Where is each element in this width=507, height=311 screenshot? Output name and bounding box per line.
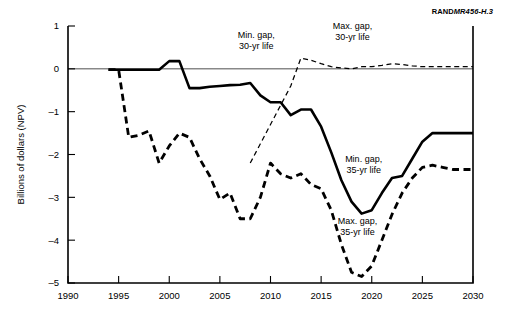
y-tick-label: –5 [48,277,59,288]
x-tick-label: 1995 [108,290,129,301]
series-label: Min. gap,30-yr life [238,30,275,51]
y-tick-label: 1 [54,20,59,31]
series-line-max-gap-35-yr-life [109,70,474,277]
x-tick-label: 2005 [209,290,230,301]
series-annotations: Min. gap,30-yr lifeMax. gap,30-yr lifeMi… [238,21,382,237]
series-layer [109,58,474,276]
axis-frame [68,26,473,283]
series-label-line2: 35-yr life [346,165,381,175]
y-tick-label: 0 [54,63,59,74]
series-label: Min. gap,35-yr life [345,154,382,175]
y-tick-label: –4 [48,235,59,246]
series-line-min-gap-30-yr-life [109,61,474,213]
x-tick-label: 2010 [260,290,281,301]
series-label: Max. gap,35-yr life [338,216,378,237]
y-tick-label: –3 [48,192,59,203]
series-label-line2: 35-yr life [340,227,375,237]
x-tick-label: 2015 [311,290,332,301]
figure-container: RANDMR456-H.3 10–1–2–3–4–5 1990199520002… [0,0,507,311]
x-tick-label: 2020 [361,290,382,301]
series-label-line1: Max. gap, [338,216,378,226]
x-tick-label: 2025 [412,290,433,301]
series-label-line1: Min. gap, [345,154,382,164]
y-tick-label: –1 [48,106,59,117]
x-axis-ticks: 199019952000200520102015202020252030 [57,276,483,301]
series-label-line2: 30-yr life [239,41,274,51]
series-label-line1: Max. gap, [333,21,373,31]
x-tick-label: 2030 [462,290,483,301]
x-tick-label: 2000 [159,290,180,301]
series-label-line2: 30-yr life [335,32,370,42]
y-axis-title: Billions of dollars (NPV) [15,105,26,205]
series-label: Max. gap,30-yr life [333,21,373,42]
y-tick-label: –2 [48,149,59,160]
series-line-max-gap-30-yr-life [250,58,473,163]
x-tick-label: 1990 [57,290,78,301]
series-label-line1: Min. gap, [238,30,275,40]
y-axis-ticks: 10–1–2–3–4–5 [48,20,75,288]
line-chart: 10–1–2–3–4–5 199019952000200520102015202… [0,0,507,311]
